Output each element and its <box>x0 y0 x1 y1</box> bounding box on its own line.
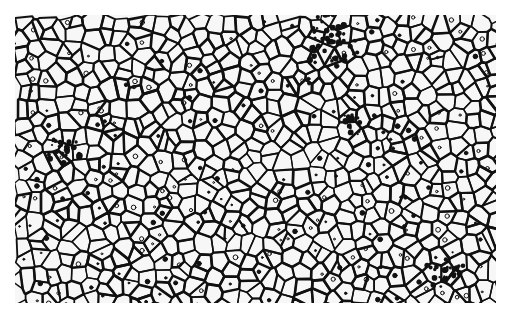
grain-micrograph <box>15 15 496 303</box>
grain-boundary-pattern <box>15 15 496 303</box>
